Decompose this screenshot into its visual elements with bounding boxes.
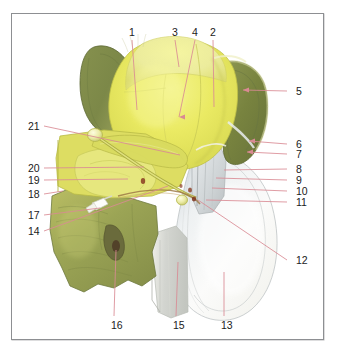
figure-label-12: 12 xyxy=(296,255,308,266)
figure-label-18: 18 xyxy=(28,189,40,200)
upper-knob-node xyxy=(88,129,103,142)
figure-label-19: 19 xyxy=(28,175,40,186)
figure-label-13: 13 xyxy=(221,320,233,331)
figure-label-4: 4 xyxy=(192,27,198,38)
figure-label-20: 20 xyxy=(28,163,40,174)
figure-label-11: 11 xyxy=(296,197,307,208)
figure-label-5: 5 xyxy=(296,86,302,97)
lower-knob-node xyxy=(177,195,188,205)
figure-label-10: 10 xyxy=(296,186,308,197)
figure-label-9: 9 xyxy=(296,175,302,186)
figure-label-17: 17 xyxy=(28,210,40,221)
grey-band-structure-15 xyxy=(152,226,188,318)
figure-label-21: 21 xyxy=(28,121,40,132)
figure-label-16: 16 xyxy=(111,320,123,331)
anatomical-illustration xyxy=(0,0,338,354)
figure-label-14: 14 xyxy=(28,226,40,237)
figure-label-1: 1 xyxy=(129,27,135,38)
pale-oval-structure-13 xyxy=(174,151,277,320)
figure-label-15: 15 xyxy=(173,320,185,331)
figure-label-7: 7 xyxy=(296,149,302,160)
figure-label-3: 3 xyxy=(172,27,178,38)
figure-label-2: 2 xyxy=(210,27,216,38)
figure-page: 134256789101112212019181714161513 xyxy=(0,0,338,354)
figure-label-8: 8 xyxy=(296,164,302,175)
